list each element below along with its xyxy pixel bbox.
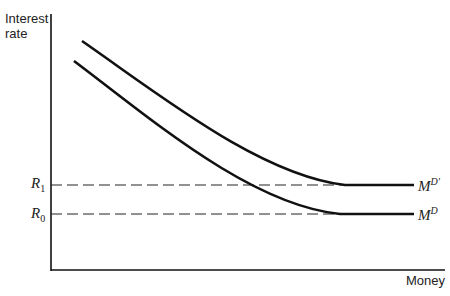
r0-label: R0 bbox=[31, 205, 45, 224]
r1-label: R1 bbox=[31, 175, 45, 194]
chart-canvas bbox=[0, 0, 450, 296]
y-axis-label-line1: Interest bbox=[5, 11, 48, 26]
money-demand-curve-shifted bbox=[82, 41, 414, 185]
md-label: MD bbox=[418, 205, 438, 224]
x-axis-label: Money bbox=[406, 273, 445, 288]
money-demand-curve bbox=[74, 61, 414, 214]
md-prime-label: MD' bbox=[418, 176, 440, 195]
y-axis-label-line2: rate bbox=[5, 26, 27, 41]
